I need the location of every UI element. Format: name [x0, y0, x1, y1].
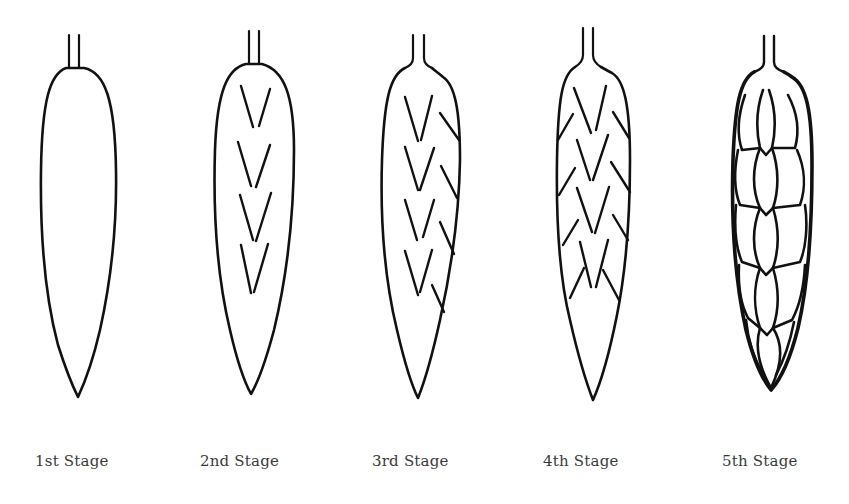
- stage-5-spike: [733, 36, 812, 390]
- stage-1-stem: [69, 35, 79, 67]
- stage-2-spikelet-marks: [238, 86, 271, 293]
- stage-5-outline: [733, 72, 812, 390]
- stage-4-label: 4th Stage: [543, 452, 619, 470]
- stage-3-stem: [405, 35, 432, 68]
- stage-4-outline: [557, 67, 630, 400]
- stage-5-spikelets: [735, 90, 806, 388]
- stage-2-spike: [215, 31, 294, 394]
- stage-4-spikelet-marks: [558, 86, 630, 300]
- stage-2-label: 2nd Stage: [200, 452, 279, 470]
- stage-5-stem: [754, 36, 784, 72]
- stage-5-label: 5th Stage: [722, 452, 798, 470]
- spike-stages-diagram: [0, 0, 849, 504]
- stage-1-spike: [41, 35, 116, 397]
- stage-2-stem: [249, 31, 259, 63]
- stage-3-outline: [382, 68, 460, 398]
- stage-3-label: 3rd Stage: [372, 452, 449, 470]
- stage-4-stem: [575, 28, 601, 67]
- stage-4-spike: [557, 28, 630, 400]
- stage-1-outline: [41, 68, 116, 397]
- stage-2-outline: [215, 64, 294, 394]
- stage-3-spike: [382, 35, 460, 398]
- stage-3-spikelet-marks: [405, 96, 459, 312]
- stage-1-label: 1st Stage: [35, 452, 109, 470]
